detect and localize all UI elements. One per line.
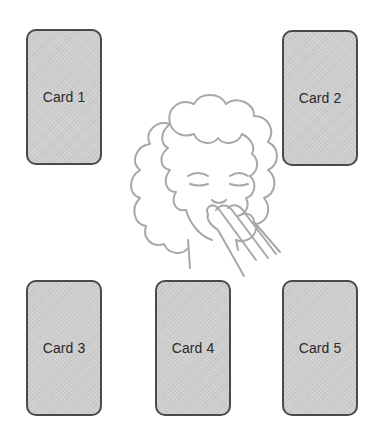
- card-3[interactable]: Card 3: [26, 280, 102, 416]
- closed-eye-right-icon: [230, 173, 248, 176]
- card-4[interactable]: Card 4: [155, 280, 231, 416]
- card-4-label: Card 4: [172, 340, 215, 356]
- card-3-label: Card 3: [43, 340, 86, 356]
- card-2-label: Card 2: [299, 90, 342, 106]
- card-5-label: Card 5: [299, 340, 342, 356]
- card-1[interactable]: Card 1: [26, 29, 102, 165]
- closed-eye-left-icon: [188, 173, 208, 176]
- card-1-label: Card 1: [43, 89, 86, 105]
- person-thinking-illustration: [108, 90, 298, 285]
- person-figure-icon: [108, 90, 298, 285]
- card-5[interactable]: Card 5: [282, 280, 358, 416]
- smile-icon: [212, 200, 226, 203]
